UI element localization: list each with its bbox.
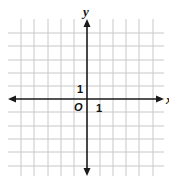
x-axis-right-arrow-icon [156,96,164,103]
coordinate-plane: y x 1 O 1 [0,0,169,176]
x-axis-left-arrow-icon [8,96,16,103]
origin-label: O [74,101,83,113]
y-axis-label: y [81,4,89,19]
x-unit-label: 1 [96,102,102,114]
y-unit-label: 1 [77,83,83,95]
x-axis-label: x [165,93,169,107]
y-axis-down-arrow-icon [84,168,91,176]
x-axis [8,96,164,103]
grid-lines [8,19,164,176]
y-axis-up-arrow-icon [84,19,91,27]
